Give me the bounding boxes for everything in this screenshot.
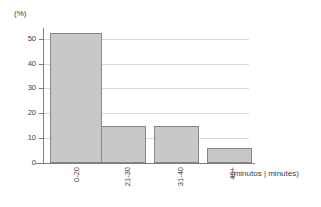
y-tick-label-10: 10 bbox=[12, 134, 36, 142]
bar-21-30 bbox=[101, 126, 146, 163]
y-axis-tick-labels: 50 40 30 20 10 0 bbox=[10, 0, 36, 207]
y-tick-mark-20 bbox=[39, 113, 44, 114]
bar-0-20 bbox=[50, 33, 102, 163]
y-tick-mark-0 bbox=[39, 163, 44, 164]
plot-area bbox=[44, 28, 249, 163]
x-axis-line bbox=[36, 163, 255, 164]
bar-40-plus bbox=[207, 148, 252, 163]
x-axis-title: (minutos | minutes) bbox=[231, 169, 299, 179]
y-tick-mark-50 bbox=[39, 39, 44, 40]
y-tick-label-50: 50 bbox=[12, 35, 36, 43]
y-tick-mark-40 bbox=[39, 64, 44, 65]
y-tick-label-30: 30 bbox=[12, 84, 36, 92]
y-tick-mark-30 bbox=[39, 88, 44, 89]
x-tick-label-31-40: 31-40 bbox=[177, 167, 185, 186]
bar-31-40 bbox=[154, 126, 199, 163]
y-tick-mark-10 bbox=[39, 138, 44, 139]
y-axis-line bbox=[43, 28, 44, 164]
y-tick-label-20: 20 bbox=[12, 109, 36, 117]
y-tick-label-0: 0 bbox=[12, 159, 36, 167]
x-tick-label-0-20: 0-20 bbox=[73, 167, 81, 182]
x-tick-label-21-30: 21-30 bbox=[124, 167, 132, 186]
y-tick-label-40: 40 bbox=[12, 60, 36, 68]
bar-chart: (%) 50 40 30 20 10 0 0-20 21-30 31-40 40… bbox=[0, 0, 321, 207]
